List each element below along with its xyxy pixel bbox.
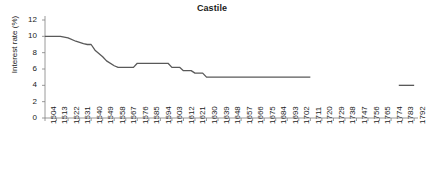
- series-line: [45, 36, 310, 77]
- data-series: [45, 36, 414, 85]
- axes: [42, 16, 418, 121]
